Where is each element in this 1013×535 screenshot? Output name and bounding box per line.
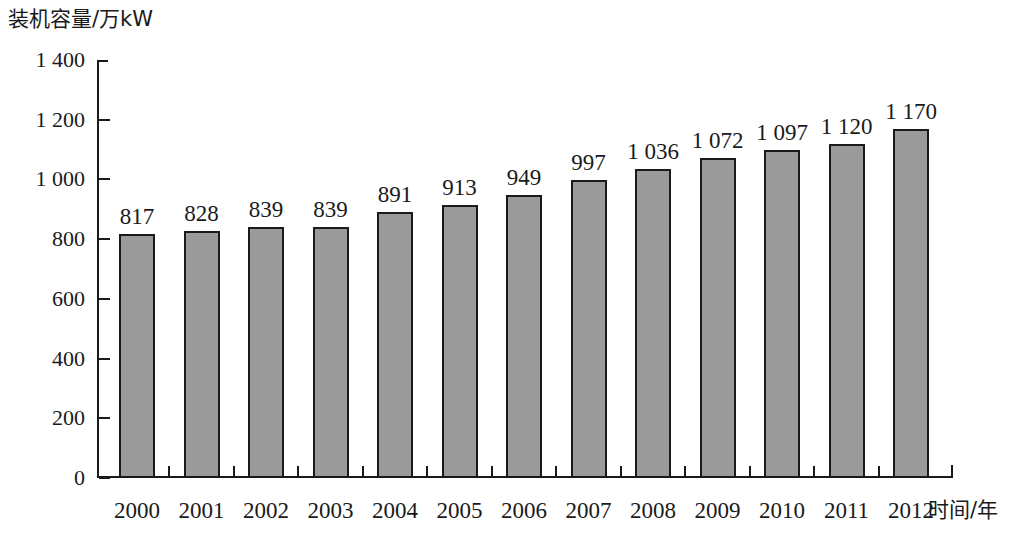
bar: [119, 234, 155, 478]
bar: [571, 180, 607, 478]
bar: [893, 129, 929, 478]
bar-value-label: 1 170: [866, 100, 956, 123]
bar: [700, 158, 736, 478]
y-axis-title: 装机容量/万kW: [8, 6, 153, 32]
y-axis-tick: [99, 477, 110, 479]
x-axis-tick: [684, 466, 686, 477]
bar: [184, 231, 220, 478]
x-axis-tick: [620, 466, 622, 477]
bar: [248, 227, 284, 478]
y-axis-tick-label: 1 200: [0, 109, 85, 131]
y-axis-tick-label: 1 000: [0, 168, 85, 190]
x-axis-tick: [362, 466, 364, 477]
y-axis-tick-label: 400: [0, 348, 85, 370]
x-axis-tick: [813, 466, 815, 477]
bar: [829, 144, 865, 478]
y-axis-tick: [99, 298, 110, 300]
x-axis-tick: [426, 466, 428, 477]
x-axis-tick: [555, 466, 557, 477]
bar: [313, 227, 349, 478]
y-axis-tick-label: 600: [0, 288, 85, 310]
y-axis-tick-label: 800: [0, 228, 85, 250]
y-axis-tick: [99, 238, 110, 240]
x-axis-category-label: 2012: [871, 499, 951, 522]
bar: [506, 195, 542, 478]
x-axis-right-cap: [951, 465, 953, 478]
y-axis-tick-label: 1 400: [0, 49, 85, 71]
x-axis-tick: [168, 466, 170, 477]
x-axis-tick: [878, 466, 880, 477]
y-axis-tick-label: 200: [0, 407, 85, 429]
y-axis-tick: [99, 358, 110, 360]
x-axis-tick: [749, 466, 751, 477]
bar-chart: 装机容量/万kW 时间/年 8178288398398919139499971 …: [0, 0, 1013, 535]
y-axis-tick: [99, 178, 110, 180]
y-axis-line: [97, 60, 99, 478]
plot-area: 8178288398398919139499971 0361 0721 0971…: [97, 60, 953, 478]
y-axis-tick: [99, 417, 110, 419]
bar: [764, 150, 800, 478]
x-axis-tick: [297, 466, 299, 477]
y-axis-tick: [99, 119, 110, 121]
bar: [377, 212, 413, 478]
y-axis-tick-label: 0: [0, 467, 85, 489]
y-axis-top-cap: [97, 60, 108, 62]
x-axis-tick: [491, 466, 493, 477]
bar: [635, 169, 671, 478]
x-axis-tick: [233, 466, 235, 477]
bar: [442, 205, 478, 478]
